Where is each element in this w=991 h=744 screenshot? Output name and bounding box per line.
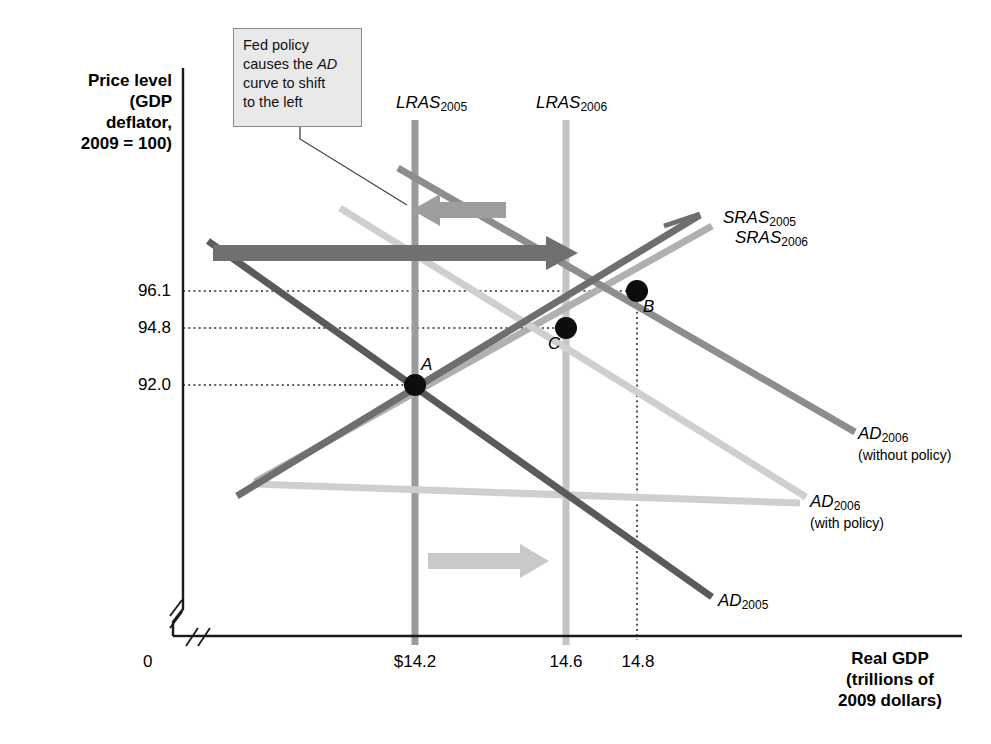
label-lras-2006: LRAS2006 <box>536 93 607 114</box>
label-lras-2006-name: LRAS <box>536 93 580 112</box>
arrow-lras-shift-right <box>428 544 549 578</box>
label-sras-2006: SRAS2006 <box>735 228 808 249</box>
y-tick-948: 94.8 <box>101 318 171 338</box>
label-ad-2006-without-policy: AD2006 (without policy) <box>858 424 951 465</box>
label-sras-2005-name: SRAS <box>723 208 769 227</box>
origin-label: 0 <box>143 652 152 672</box>
x-tick-148: 14.8 <box>593 652 683 672</box>
label-sras-2006-sub: 2006 <box>781 235 808 249</box>
label-ad-2006-without-note: (without policy) <box>858 446 951 465</box>
x-tick-142: $14.2 <box>370 652 460 672</box>
curve-ad-2006-with-policy <box>252 484 800 503</box>
label-sras-2005-sub: 2005 <box>769 215 796 229</box>
label-sras-2006-name: SRAS <box>735 228 781 247</box>
callout-pointer <box>300 127 407 205</box>
label-ad-2005: AD2005 <box>718 591 768 612</box>
label-ad-2006-with-policy: AD2006 (with policy) <box>810 492 884 533</box>
y-axis-title: Price level (GDP deflator, 2009 = 100) <box>52 70 172 154</box>
callout-box: Fed policy causes the AD curve to shift … <box>233 28 362 127</box>
label-ad-2005-name: AD <box>718 591 742 610</box>
label-ad-2006-with-note: (with policy) <box>810 514 884 533</box>
label-ad-2006-without-sub: 2006 <box>882 431 909 445</box>
label-ad-2006-without-name: AD <box>858 424 882 443</box>
point-label-c: C <box>548 334 560 354</box>
label-ad-2006-with-sub: 2006 <box>834 499 861 513</box>
label-ad-2005-sub: 2005 <box>742 598 769 612</box>
point-label-b: B <box>643 297 654 317</box>
label-ad-2006-with-name: AD <box>810 492 834 511</box>
label-lras-2005-name: LRAS <box>396 93 440 112</box>
label-lras-2005-sub: 2005 <box>440 100 467 114</box>
y-tick-920: 92.0 <box>101 375 171 395</box>
callout-line-1: Fed policy <box>243 37 309 53</box>
callout-line-4: to the left <box>243 94 303 110</box>
callout-line-2b: AD <box>317 56 337 72</box>
y-tick-961: 96.1 <box>101 281 171 301</box>
label-lras-2005: LRAS2005 <box>396 93 467 114</box>
point-label-a: A <box>421 355 432 375</box>
callout-line-2a: causes the <box>243 56 317 72</box>
figure-canvas: Price level (GDP deflator, 2009 = 100) R… <box>0 0 991 744</box>
label-sras-2005: SRAS2005 <box>723 208 796 229</box>
point-a-marker <box>404 374 426 396</box>
x-axis-title: Real GDP (trillions of 2009 dollars) <box>800 648 980 711</box>
label-lras-2006-sub: 2006 <box>580 100 607 114</box>
callout-line-3: curve to shift <box>243 75 325 91</box>
